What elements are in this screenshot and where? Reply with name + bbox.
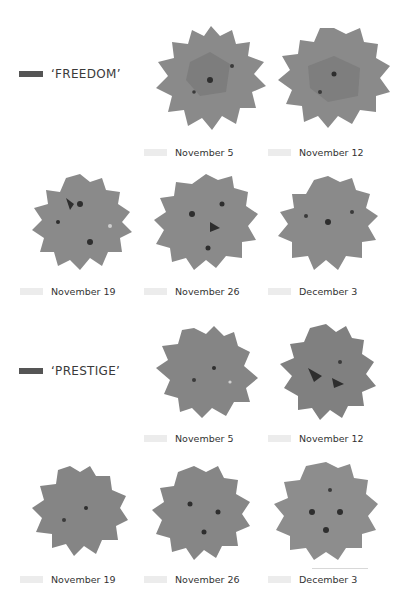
photo-date: November 26 [175, 286, 240, 297]
caption-chip [144, 288, 167, 295]
legend-swatch [19, 368, 43, 374]
poinsettia-image [278, 322, 378, 422]
poinsettia-image [154, 322, 260, 420]
variety-name: ‘PRESTIGE’ [51, 364, 120, 378]
photo-caption: November 19 [20, 574, 116, 585]
photo-caption: November 5 [144, 433, 233, 444]
variety-name: ‘FREEDOM’ [51, 67, 121, 81]
variety-label-prestige: ‘PRESTIGE’ [19, 364, 120, 378]
photo-date: November 19 [51, 286, 116, 297]
photo-caption: November 26 [144, 286, 240, 297]
plant-photo-prestige-nov12 [278, 322, 378, 422]
poinsettia-image [150, 462, 254, 560]
photo-date: November 5 [175, 433, 233, 444]
plant-photo-prestige-nov5 [154, 322, 260, 420]
photo-date: November 26 [175, 574, 240, 585]
plant-photo-freedom-nov5 [150, 22, 272, 134]
plant-photo-freedom-dec3 [276, 172, 380, 274]
photo-caption: December 3 [268, 286, 357, 297]
plant-photo-freedom-nov19 [30, 170, 134, 274]
poinsettia-image [272, 460, 380, 562]
plant-photo-prestige-nov19 [30, 462, 130, 558]
plant-photo-freedom-nov26 [152, 170, 262, 274]
caption-chip [268, 435, 291, 442]
photo-caption: November 12 [268, 433, 364, 444]
scale-bar [312, 568, 368, 569]
caption-chip [268, 149, 291, 156]
variety-label-freedom: ‘FREEDOM’ [19, 67, 121, 81]
caption-chip [144, 576, 167, 583]
caption-chip [268, 288, 291, 295]
photo-caption: November 12 [268, 147, 364, 158]
photo-date: November 19 [51, 574, 116, 585]
photo-date: November 12 [299, 433, 364, 444]
photo-caption: December 3 [268, 574, 357, 585]
poinsettia-image [150, 22, 272, 134]
legend-swatch [19, 71, 43, 77]
caption-chip [268, 576, 291, 583]
photo-caption: November 5 [144, 147, 233, 158]
caption-chip [20, 576, 43, 583]
poinsettia-image [272, 22, 396, 134]
poinsettia-image [276, 172, 380, 274]
photo-date: December 3 [299, 286, 357, 297]
caption-chip [144, 435, 167, 442]
plant-photo-freedom-nov12 [272, 22, 396, 134]
photo-date: December 3 [299, 574, 357, 585]
plant-photo-prestige-dec3 [272, 460, 380, 562]
photo-caption: November 26 [144, 574, 240, 585]
plant-photo-prestige-nov26 [150, 462, 254, 560]
poinsettia-image [30, 170, 134, 274]
photo-date: November 5 [175, 147, 233, 158]
poinsettia-image [30, 462, 130, 558]
caption-chip [20, 288, 43, 295]
photo-date: November 12 [299, 147, 364, 158]
photo-caption: November 19 [20, 286, 116, 297]
poinsettia-image [152, 170, 262, 274]
caption-chip [144, 149, 167, 156]
